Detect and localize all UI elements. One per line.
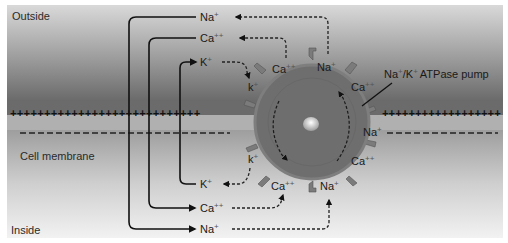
pump-pore	[303, 117, 319, 131]
inside-label: Inside	[11, 224, 40, 236]
diagram-canvas: ++++++++++++++++++++++++++++ +++++++++++…	[0, 0, 508, 243]
cell-membrane-label: Cell membrane	[20, 150, 95, 162]
positive-charges-right: ++++++++++++++++++	[382, 108, 501, 120]
membrane-diagram: ++++++++++++++++++++++++++++ +++++++++++…	[0, 0, 508, 243]
svg-text:++++++++++++++++++: ++++++++++++++++++	[382, 108, 501, 120]
svg-text:++++++++++++++++++++++++++++: ++++++++++++++++++++++++++++	[10, 108, 201, 120]
positive-charges-left: ++++++++++++++++++++++++++++	[10, 108, 201, 120]
outside-label: Outside	[12, 10, 50, 22]
